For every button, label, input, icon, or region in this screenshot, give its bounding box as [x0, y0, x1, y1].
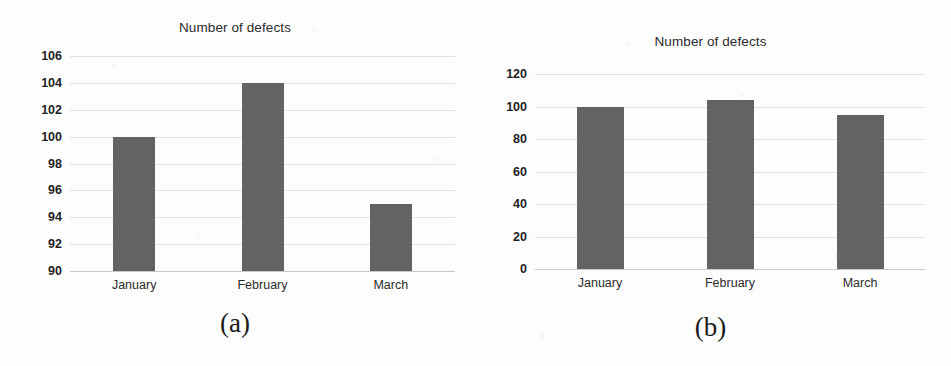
- panel-caption-b: (b): [470, 312, 951, 343]
- y-axis-tick-label-a: 106: [41, 49, 62, 63]
- y-axis-tick-label-b: 120: [506, 67, 527, 81]
- x-axis-tick-label-january-a: January: [112, 278, 156, 292]
- chart-title-b: Number of defects: [470, 34, 951, 49]
- gridline-a: [70, 56, 455, 57]
- bar-february-b: [707, 100, 754, 269]
- bar-march-b: [837, 115, 884, 269]
- y-axis-tick-label-a: 90: [48, 264, 62, 278]
- x-axis-tick-label-january-b: January: [578, 276, 622, 290]
- bar-january-a: [113, 137, 155, 271]
- y-axis-tick-label-a: 104: [41, 76, 62, 90]
- y-axis-tick-label-a: 100: [41, 130, 62, 144]
- y-axis-tick-label-b: 20: [513, 230, 527, 244]
- y-axis-tick-label-b: 0: [520, 262, 527, 276]
- y-axis-tick-label-a: 94: [48, 210, 62, 224]
- bar-january-b: [577, 107, 624, 270]
- panel-a: Number of defects 1061041021009896949290…: [0, 0, 470, 366]
- chart-title-a: Number of defects: [0, 20, 470, 35]
- y-axis-tick-label-a: 102: [41, 103, 62, 117]
- y-axis-tick-label-b: 80: [513, 132, 527, 146]
- panel-caption-a: (a): [0, 308, 470, 339]
- y-axis-tick-label-b: 100: [506, 100, 527, 114]
- y-axis-tick-label-a: 92: [48, 237, 62, 251]
- x-axis-tick-label-february-a: February: [237, 278, 287, 292]
- gridline-b: [535, 74, 925, 75]
- y-axis-tick-label-b: 40: [513, 197, 527, 211]
- plot-area-a: 1061041021009896949290JanuaryFebruaryMar…: [70, 56, 455, 271]
- x-axis-tick-label-march-a: March: [373, 278, 408, 292]
- bar-february-a: [242, 83, 284, 271]
- x-axis-tick-label-march-b: March: [843, 276, 878, 290]
- panel-b: Number of defects 120100806040200January…: [470, 0, 951, 366]
- bar-march-a: [370, 204, 412, 271]
- plot-area-b: 120100806040200JanuaryFebruaryMarch: [535, 74, 925, 269]
- x-axis-tick-label-february-b: February: [705, 276, 755, 290]
- y-axis-tick-label-b: 60: [513, 165, 527, 179]
- y-axis-tick-label-a: 96: [48, 183, 62, 197]
- figure-two-panel-bar-charts: Number of defects 1061041021009896949290…: [0, 0, 951, 366]
- axis-baseline-b: [535, 269, 925, 270]
- y-axis-tick-label-a: 98: [48, 157, 62, 171]
- axis-baseline-a: [70, 271, 455, 272]
